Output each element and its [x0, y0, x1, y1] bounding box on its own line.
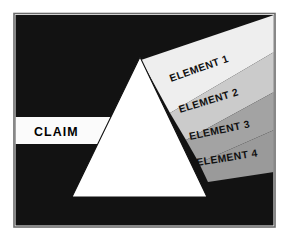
prism-diagram: CLAIM ELEMENT 1 ELEMENT 2 ELEMENT 3 ELEM…: [0, 0, 288, 242]
figure-canvas: CLAIM ELEMENT 1 ELEMENT 2 ELEMENT 3 ELEM…: [0, 0, 288, 242]
claim-beam-label: CLAIM: [34, 125, 79, 139]
